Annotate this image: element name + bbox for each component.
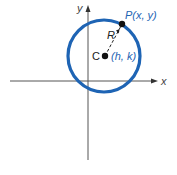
- x-axis-label: x: [160, 75, 167, 87]
- circle-diagram: x y C (h, k) P(x, y) R: [0, 0, 177, 175]
- point-coords: (x, y): [132, 9, 157, 21]
- center-letter-label: C: [92, 50, 100, 62]
- point-p: [119, 21, 125, 27]
- y-axis-arrow-icon: [86, 5, 91, 12]
- point-coords-label: P(x, y): [125, 9, 157, 21]
- y-axis-label: y: [76, 2, 84, 14]
- center-coords-label: (h, k): [111, 50, 136, 62]
- center-point: [102, 53, 108, 59]
- radius-label: R: [107, 29, 115, 41]
- x-axis-arrow-icon: [151, 79, 158, 84]
